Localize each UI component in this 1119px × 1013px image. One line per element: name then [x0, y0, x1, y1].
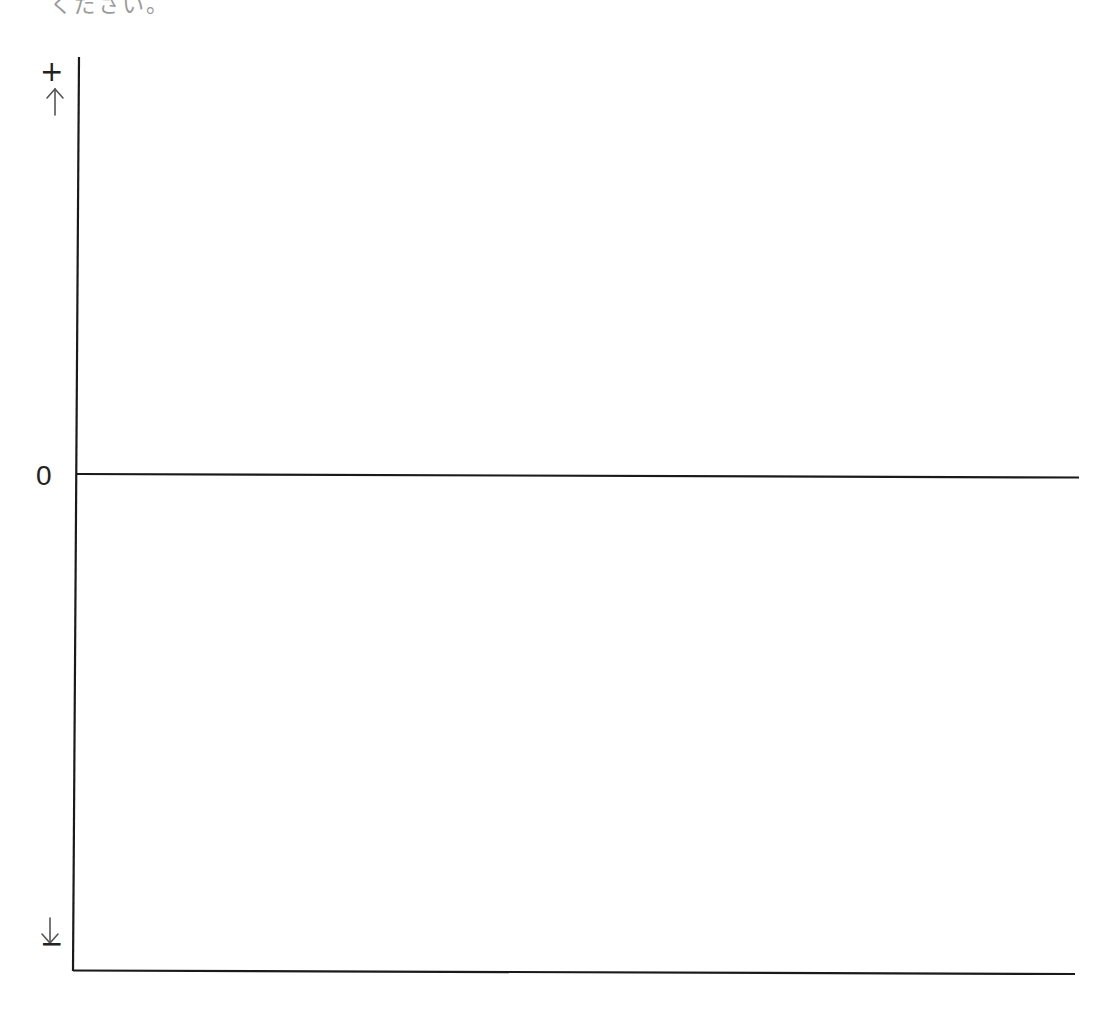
positive-label: + — [40, 58, 63, 86]
up-arrow-icon — [47, 89, 63, 115]
negative-label: − — [40, 930, 63, 958]
axes-diagram — [0, 0, 1119, 1013]
bottom-line — [73, 971, 1075, 975]
zero-label: 0 — [36, 462, 52, 490]
y-axis-line — [73, 57, 79, 971]
zero-line — [77, 474, 1079, 478]
